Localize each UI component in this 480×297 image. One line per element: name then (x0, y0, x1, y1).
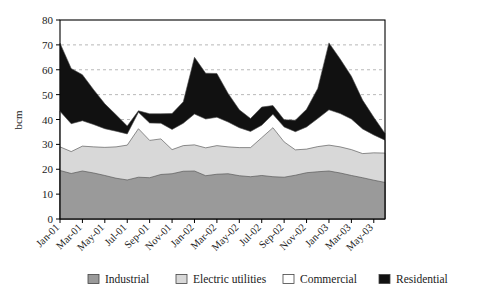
chart-legend: IndustrialElectric utilitiesCommercialRe… (88, 273, 448, 285)
y-tick-label: 60 (42, 64, 54, 76)
y-axis: 01020304050607080 (42, 14, 60, 225)
y-tick-label: 30 (42, 138, 54, 150)
legend-label: Industrial (105, 273, 149, 285)
legend-swatch (283, 275, 294, 284)
series-area (60, 170, 385, 219)
y-tick-label: 70 (42, 39, 54, 51)
legend-swatch (88, 275, 99, 284)
stacked-area-chart: 01020304050607080 Jan-01Mar-01May-01Jul-… (0, 0, 480, 297)
legend-swatch (379, 275, 390, 284)
legend-label: Residential (396, 273, 448, 285)
chart-figure: 01020304050607080 Jan-01Mar-01May-01Jul-… (0, 0, 480, 297)
y-tick-label: 20 (42, 163, 54, 175)
y-tick-label: 10 (42, 188, 54, 200)
y-axis-title: bcm (12, 110, 24, 129)
legend-swatch (176, 275, 187, 284)
y-tick-label: 80 (42, 14, 54, 26)
legend-label: Commercial (300, 273, 357, 285)
x-axis: Jan-01Mar-01May-01Jul-01Sep-01Nov-01Jan-… (34, 219, 375, 253)
y-tick-label: 40 (42, 114, 54, 126)
y-tick-label: 50 (42, 89, 54, 101)
legend-label: Electric utilities (193, 273, 267, 285)
